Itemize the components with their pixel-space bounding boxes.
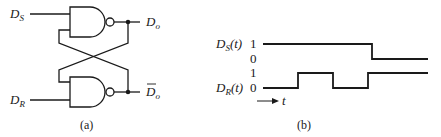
ds-low-level: 0 — [250, 51, 257, 66]
ds-waveform — [263, 44, 428, 59]
q-bar-output-label: Do — [145, 84, 160, 101]
top-nand-bubble — [106, 18, 114, 26]
time-arrow: t — [257, 93, 286, 108]
q-output-label: Do — [145, 14, 160, 31]
figure-canvas: DS DR Do Do (a) DS(t) 1 0 1 DR(t) 0 t (b… — [0, 0, 441, 137]
panel-b-timing-diagram: DS(t) 1 0 1 DR(t) 0 t (b) — [215, 36, 428, 132]
dr-high-level: 1 — [250, 65, 257, 80]
arrow-head-icon — [272, 98, 279, 104]
dr-waveform — [263, 73, 428, 88]
reset-input-label: DR — [9, 92, 25, 109]
svg-text:Do: Do — [145, 84, 160, 101]
bottom-output-junction-dot — [126, 90, 129, 93]
bottom-nand-bubble — [106, 88, 114, 96]
ds-high-level: 1 — [250, 36, 257, 51]
bottom-nand-gate — [70, 77, 105, 107]
time-axis-label: t — [282, 93, 286, 108]
dr-low-level: 0 — [250, 80, 257, 95]
ds-signal-label: DS(t) — [215, 36, 242, 53]
top-nand-gate — [70, 7, 105, 37]
panel-b-caption: (b) — [297, 118, 311, 132]
panel-a-caption: (a) — [80, 118, 93, 132]
panel-a-latch-circuit — [30, 7, 140, 107]
set-input-label: DS — [9, 6, 24, 23]
dr-signal-label: DR(t) — [215, 80, 243, 97]
